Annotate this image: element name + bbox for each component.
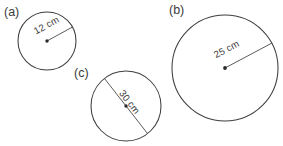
circles-diagram: (a) 12 cm (b) 25 cm (c) 30 cm (0, 0, 283, 146)
part-label-c: (c) (74, 66, 89, 80)
center-dot-a (45, 39, 48, 42)
radius-line-a (47, 27, 73, 41)
diameter-label-c: 30 cm (117, 88, 142, 116)
radius-label-b: 25 cm (212, 38, 241, 60)
center-dot-b (223, 66, 227, 70)
figure-part-c: (c) 30 cm (74, 66, 161, 141)
figure-canvas: (a) 12 cm (b) 25 cm (c) 30 cm (0, 0, 283, 146)
part-label-b: (b) (169, 3, 184, 17)
figure-part-b: (b) 25 cm (169, 3, 278, 121)
part-label-a: (a) (4, 5, 19, 19)
figure-part-a: (a) 12 cm (4, 5, 76, 70)
radius-label-a: 12 cm (32, 14, 61, 37)
